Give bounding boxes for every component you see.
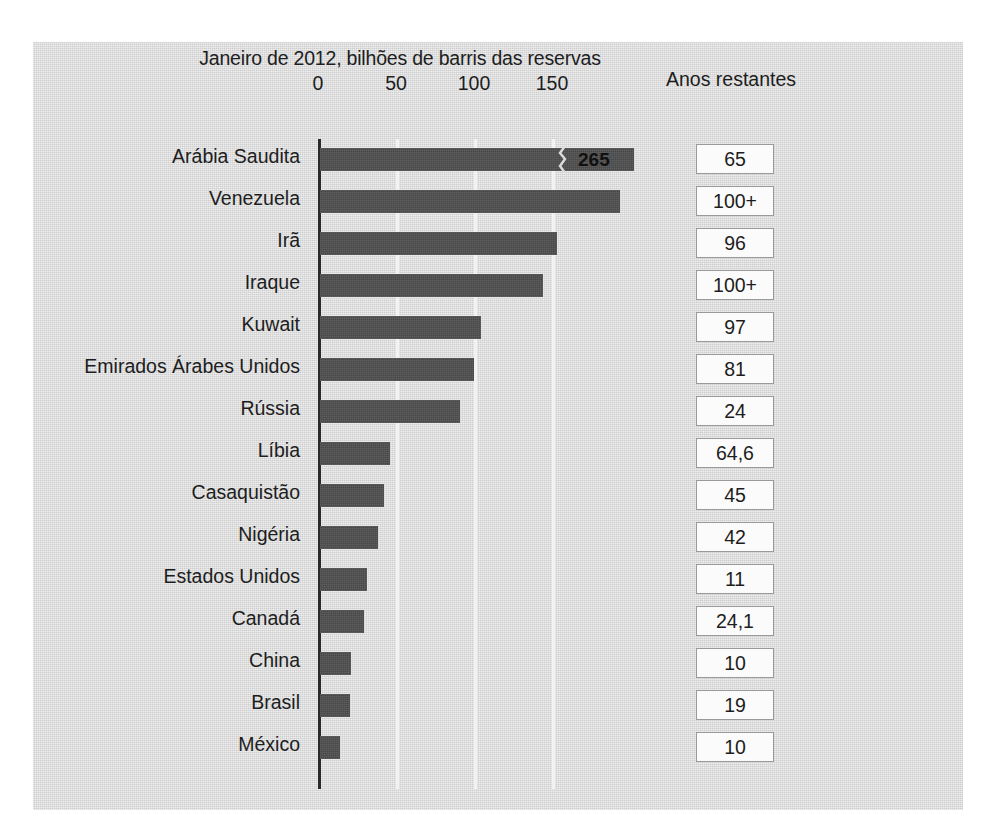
chart-row: Iraque100+ (0, 265, 982, 307)
years-remaining-box: 81 (696, 354, 774, 384)
bar-track (320, 349, 660, 391)
bar-track (320, 433, 660, 475)
bar-track (320, 685, 660, 727)
x-tick-100: 100 (458, 72, 491, 95)
bar-value-label: 265 (578, 149, 610, 171)
country-label: México (0, 733, 300, 756)
years-remaining-box: 19 (696, 690, 774, 720)
x-axis-tick-labels: 050100150 (276, 72, 636, 98)
chart-row: Nigéria42 (0, 517, 982, 559)
country-label: Líbia (0, 439, 300, 462)
country-label: Nigéria (0, 523, 300, 546)
bar-track (320, 559, 660, 601)
years-remaining-box: 24 (696, 396, 774, 426)
bar-track (320, 601, 660, 643)
bar-track (320, 517, 660, 559)
bar-track (320, 391, 660, 433)
chart-row: Venezuela100+ (0, 181, 982, 223)
x-tick-150: 150 (536, 72, 569, 95)
country-label: Irã (0, 229, 300, 252)
years-remaining-box: 24,1 (696, 606, 774, 636)
years-remaining-box: 100+ (696, 270, 774, 300)
chart-row: Irã96 (0, 223, 982, 265)
bar-track (320, 643, 660, 685)
chart-row: Estados Unidos11 (0, 559, 982, 601)
chart-row: Casaquistão45 (0, 475, 982, 517)
country-label: Canadá (0, 607, 300, 630)
chart-row: Canadá24,1 (0, 601, 982, 643)
bar (320, 442, 390, 465)
bar-track (320, 265, 660, 307)
years-remaining-box: 10 (696, 732, 774, 762)
chart-row: Emirados Árabes Unidos81 (0, 349, 982, 391)
chart-row: México10 (0, 727, 982, 769)
chart-row: Líbia64,6 (0, 433, 982, 475)
bar (320, 694, 350, 717)
years-remaining-box: 11 (696, 564, 774, 594)
country-label: Arábia Saudita (0, 145, 300, 168)
years-remaining-box: 65 (696, 144, 774, 174)
country-label: Kuwait (0, 313, 300, 336)
bar (320, 232, 557, 255)
bar (320, 652, 351, 675)
bar (320, 736, 340, 759)
country-label: Rússia (0, 397, 300, 420)
country-label: Casaquistão (0, 481, 300, 504)
bar (320, 274, 543, 297)
bar (320, 568, 367, 591)
years-remaining-box: 64,6 (696, 438, 774, 468)
years-remaining-box: 42 (696, 522, 774, 552)
bar (320, 190, 620, 213)
years-remaining-box: 96 (696, 228, 774, 258)
country-label: China (0, 649, 300, 672)
bar-track (320, 181, 660, 223)
years-remaining-box: 100+ (696, 186, 774, 216)
country-label: Venezuela (0, 187, 300, 210)
chart-row: China10 (0, 643, 982, 685)
bar-track: 265 (320, 139, 660, 181)
bar-track (320, 475, 660, 517)
bar-track (320, 223, 660, 265)
years-column-header: Anos restantes (666, 68, 796, 91)
chart-row: Kuwait97 (0, 307, 982, 349)
years-remaining-box: 97 (696, 312, 774, 342)
bar (320, 484, 384, 507)
years-remaining-box: 45 (696, 480, 774, 510)
bar (320, 400, 460, 423)
chart-row: Arábia Saudita26565 (0, 139, 982, 181)
bar (320, 526, 378, 549)
country-label: Emirados Árabes Unidos (0, 355, 300, 378)
chart-title: Janeiro de 2012, bilhões de barris das r… (150, 47, 650, 70)
country-label: Estados Unidos (0, 565, 300, 588)
chart-row: Rússia24 (0, 391, 982, 433)
bar (320, 610, 364, 633)
country-label: Iraque (0, 271, 300, 294)
bar-track (320, 727, 660, 769)
country-label: Brasil (0, 691, 300, 714)
chart-row: Brasil19 (0, 685, 982, 727)
bar (320, 316, 481, 339)
years-remaining-box: 10 (696, 648, 774, 678)
x-tick-50: 50 (385, 72, 407, 95)
bar (320, 358, 474, 381)
bar-track (320, 307, 660, 349)
x-tick-0: 0 (313, 72, 324, 95)
